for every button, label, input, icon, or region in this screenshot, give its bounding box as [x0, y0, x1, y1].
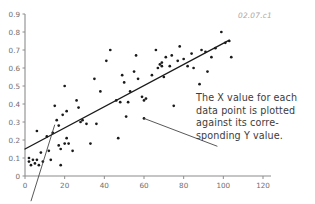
annotation-line-3: against its corre-	[196, 117, 314, 130]
scatter-plot-figure: 00.10.20.30.40.50.60.70.80.9 02040608010…	[0, 0, 315, 204]
data-point	[230, 56, 233, 59]
data-point	[151, 74, 154, 77]
data-point	[178, 45, 181, 48]
data-point	[170, 54, 173, 57]
x-tick-label: 120	[256, 181, 270, 190]
data-point	[161, 65, 164, 68]
y-tick-label: 0.3	[9, 118, 20, 127]
data-point	[117, 137, 120, 140]
data-point	[36, 130, 39, 133]
data-point	[190, 52, 193, 55]
data-point	[161, 61, 164, 64]
data-point	[30, 164, 33, 167]
data-point	[49, 158, 52, 161]
data-point	[63, 142, 66, 145]
data-point	[28, 157, 31, 160]
data-point	[145, 97, 148, 100]
y-tick-label: 0.4	[9, 100, 21, 109]
data-point	[137, 77, 140, 80]
data-point	[95, 122, 98, 125]
data-point	[34, 162, 37, 165]
x-tick-label: 60	[139, 181, 149, 190]
data-point	[40, 151, 43, 154]
data-point	[141, 95, 144, 98]
data-point	[28, 160, 31, 163]
data-point	[55, 119, 58, 122]
data-point	[61, 113, 64, 116]
data-point	[123, 81, 126, 84]
data-point	[57, 144, 60, 147]
data-point	[89, 142, 92, 145]
data-point	[38, 164, 41, 167]
data-point	[176, 59, 179, 62]
data-point	[119, 101, 122, 104]
x-tick-label: 100	[216, 181, 230, 190]
data-point	[109, 49, 112, 52]
data-point	[85, 122, 88, 125]
y-tick-label: 0.6	[9, 64, 21, 73]
data-point	[127, 101, 130, 104]
data-point	[182, 58, 185, 61]
y-tick-label: 0.1	[9, 154, 20, 163]
data-point	[206, 70, 209, 73]
data-point	[59, 164, 62, 167]
annotation-line-4: sponding Y value.	[196, 130, 314, 143]
data-point	[135, 54, 138, 57]
data-point	[36, 158, 39, 161]
data-point	[133, 70, 136, 73]
data-point	[71, 149, 74, 152]
data-point	[125, 115, 128, 118]
data-point	[79, 121, 82, 124]
data-point	[65, 137, 68, 140]
data-point	[186, 65, 189, 68]
data-point	[210, 56, 213, 59]
y-tick-label: 0.8	[9, 28, 21, 37]
data-point	[53, 104, 56, 107]
data-point	[47, 149, 50, 152]
data-point	[155, 49, 158, 52]
x-tick-label: 40	[100, 181, 110, 190]
data-point	[105, 59, 108, 62]
figure-id-label: 02.07.c1	[238, 11, 272, 20]
annotation-text: The X value for each data point is plott…	[196, 92, 314, 142]
data-point	[93, 77, 96, 80]
data-point	[164, 56, 167, 59]
data-point	[67, 142, 70, 145]
y-tick-label: 0.5	[9, 82, 20, 91]
data-point	[168, 65, 171, 68]
x-tick-label: 80	[179, 181, 189, 190]
x-axis: 020406080100120	[23, 176, 271, 190]
x-tick-label: 0	[23, 181, 28, 190]
y-axis: 00.10.20.30.40.50.60.70.80.9	[9, 10, 25, 181]
data-point	[157, 67, 160, 70]
data-point	[65, 110, 68, 113]
y-tick-label: 0.7	[9, 46, 20, 55]
data-point	[198, 83, 201, 86]
x-tick-label: 20	[60, 181, 70, 190]
y-tick-label: 0	[15, 172, 20, 181]
annotation-line-1: The X value for each	[196, 92, 314, 105]
data-point	[77, 106, 80, 109]
y-tick-label: 0.9	[9, 10, 21, 19]
data-point	[121, 74, 124, 77]
annotation-line-2: data point is plotted	[196, 105, 314, 118]
data-point	[220, 31, 223, 34]
data-point	[59, 148, 62, 151]
data-point	[75, 99, 78, 102]
data-point	[99, 90, 102, 93]
data-point	[63, 85, 66, 88]
data-point	[32, 158, 35, 161]
data-point	[192, 67, 195, 70]
y-tick-label: 0.2	[9, 136, 20, 145]
data-point	[57, 124, 60, 127]
data-point	[172, 104, 175, 107]
data-point	[200, 49, 203, 52]
